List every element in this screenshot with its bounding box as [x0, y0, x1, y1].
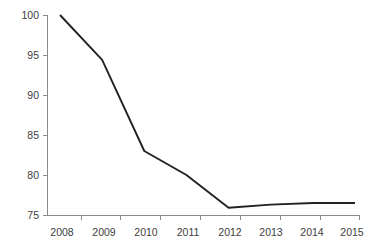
x-tick-label-2009: 2009 [92, 226, 116, 238]
x-tick-label-2014: 2014 [300, 226, 324, 238]
y-tick-label-100: 100 [21, 9, 39, 21]
x-tick-label-2010: 2010 [134, 226, 158, 238]
x-tick-label-2013: 2013 [259, 226, 283, 238]
y-tick-label-80: 80 [27, 169, 39, 181]
y-axis-ticks [43, 16, 48, 216]
data-series-line [60, 15, 355, 208]
y-tick-label-75: 75 [27, 209, 39, 221]
x-tick-label-2012: 2012 [218, 226, 242, 238]
x-tick-label-2008: 2008 [50, 226, 74, 238]
chart-canvas: 100 95 90 85 80 75 2008 20 [0, 0, 372, 249]
y-tick-label-95: 95 [27, 49, 39, 61]
plot-area [60, 15, 355, 208]
y-tick-label-85: 85 [27, 129, 39, 141]
x-tick-label-2015: 2015 [340, 226, 364, 238]
x-axis: 2008 2009 2010 2011 2012 2013 2014 2015 [48, 216, 364, 239]
y-tick-label-90: 90 [27, 89, 39, 101]
y-axis: 100 95 90 85 80 75 [21, 9, 47, 221]
x-tick-label-2011: 2011 [177, 226, 200, 238]
x-axis-tick-labels: 2008 2009 2010 2011 2012 2013 2014 2015 [50, 226, 364, 238]
line-chart: 100 95 90 85 80 75 2008 20 [0, 0, 372, 249]
y-axis-tick-labels: 100 95 90 85 80 75 [21, 9, 39, 221]
x-axis-ticks [82, 216, 360, 221]
